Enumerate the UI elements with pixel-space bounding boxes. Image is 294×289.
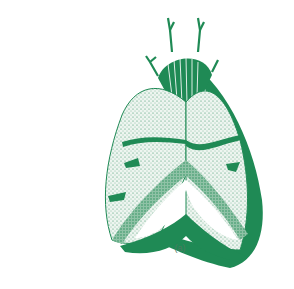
left-wing (105, 88, 186, 243)
moth-illustration (0, 0, 294, 289)
figure-caption: (a) (168, 243, 192, 253)
figure-canvas: (a) (0, 0, 294, 289)
